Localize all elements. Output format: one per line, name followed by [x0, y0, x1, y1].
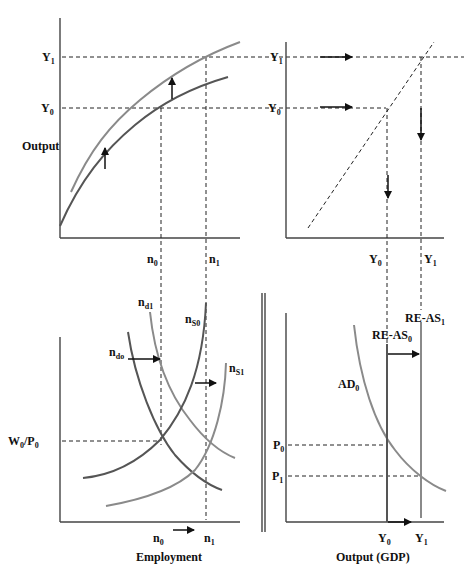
- tick-n0: n0: [147, 252, 158, 268]
- aggregate-demand-curve-ad0: [354, 325, 446, 491]
- label-ns0: nS0: [185, 312, 200, 328]
- tick-y1: Y1: [270, 50, 283, 66]
- tick-y1: Y1: [415, 531, 428, 547]
- label-re-as1: RE-AS1: [405, 311, 445, 327]
- panel-divider: [262, 293, 265, 532]
- x-axis-label-employment: Employment: [136, 550, 202, 564]
- y-axis-label-output: Output: [22, 139, 59, 153]
- tick-n1: n1: [204, 531, 215, 547]
- tick-real-wage: W0/P0: [8, 434, 39, 450]
- label-nd0: ndo: [109, 345, 124, 361]
- tick-n0: n0: [153, 531, 164, 547]
- tick-p0: P0: [273, 438, 284, 454]
- production-function-panel: Y1 Y0 Output n0 n1: [22, 18, 464, 520]
- production-curve-shifted: [71, 42, 240, 192]
- tick-y1: Y1: [42, 50, 55, 66]
- forty-five-degree-line: [308, 42, 434, 228]
- label-re-as0: RE-AS0: [372, 328, 412, 344]
- tick-y0: Y0: [378, 531, 391, 547]
- tick-y0: Y0: [41, 101, 54, 117]
- label-nd1: nd1: [138, 295, 153, 311]
- four-panel-macro-diagram: Y1 Y0 Output n0 n1 Y1 Y0 Y0 Y1: [0, 0, 464, 578]
- x-axis-label-output-gdp: Output (GDP): [336, 550, 410, 564]
- tick-x-y1: Y1: [424, 252, 437, 268]
- tick-n1: n1: [209, 252, 220, 268]
- tick-y0: Y0: [268, 101, 281, 117]
- tick-p1: P1: [272, 469, 283, 485]
- label-ns1: nS1: [229, 361, 244, 377]
- labor-market-panel: nd1 ndo nS0 nS1 W0/P0 n0 n1 Employment: [8, 295, 244, 564]
- ad-as-panel: RE-AS1 RE-AS0 AD0 P0 P1 Y0 Y1 Output (GD…: [272, 311, 446, 564]
- production-curve-initial: [60, 77, 228, 226]
- labor-supply-curve-ns0: [83, 303, 206, 478]
- label-ad0: AD0: [338, 377, 359, 393]
- labor-demand-curve-nd0: [128, 332, 222, 490]
- tick-x-y0: Y0: [369, 252, 382, 268]
